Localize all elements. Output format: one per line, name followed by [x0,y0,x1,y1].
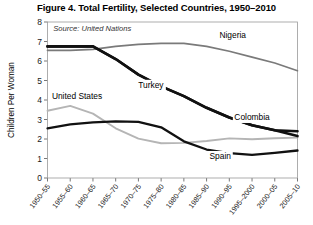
x-tick-label: 1980–85 [164,182,189,210]
series-label-nigeria: Nigeria [219,30,246,40]
y-axis-title: Children Per Woman [7,62,16,138]
x-tick-label: 1960–65 [73,182,98,210]
x-tick-label: 1970–75 [118,182,143,210]
y-tick-label: 0 [37,173,42,183]
x-axis: 1950–551955–601960–651965–701970–751975–… [27,178,302,217]
y-tick-label: 4 [37,95,42,105]
y-axis: 012345678Children Per Woman [7,17,48,183]
series-labels: NigeriaTurkeyUnited StatesColombiaSpainS… [50,24,271,162]
y-tick-label: 7 [37,37,42,47]
y-tick-label: 3 [37,115,42,125]
x-tick-label: 1975–80 [141,182,166,210]
chart-canvas: 012345678Children Per Woman 1950–551955–… [0,0,313,225]
x-tick-label: 2000–05 [255,182,280,210]
series-label-united-states: United States [52,91,102,101]
x-tick-label: 1950–55 [27,182,52,210]
x-tick-label: 2005–10 [277,182,302,210]
x-tick-label: 1965–70 [96,182,121,210]
y-tick-label: 8 [37,17,42,27]
series-label-colombia: Colombia [234,112,270,122]
x-tick-label: 1955–60 [50,182,75,210]
y-tick-label: 6 [37,56,42,66]
y-tick-label: 5 [37,76,42,86]
series-label-turkey: Turkey [138,80,164,90]
y-tick-label: 1 [37,154,42,164]
series-line-united-states [48,106,298,143]
series-label-spain: Spain [210,151,232,161]
y-tick-label: 2 [37,134,42,144]
x-tick-label: 1985–90 [187,182,212,210]
chart-figure: Figure 4. Total Fertility, Selected Coun… [0,0,313,225]
source-note: Source: United Nations [53,24,131,33]
